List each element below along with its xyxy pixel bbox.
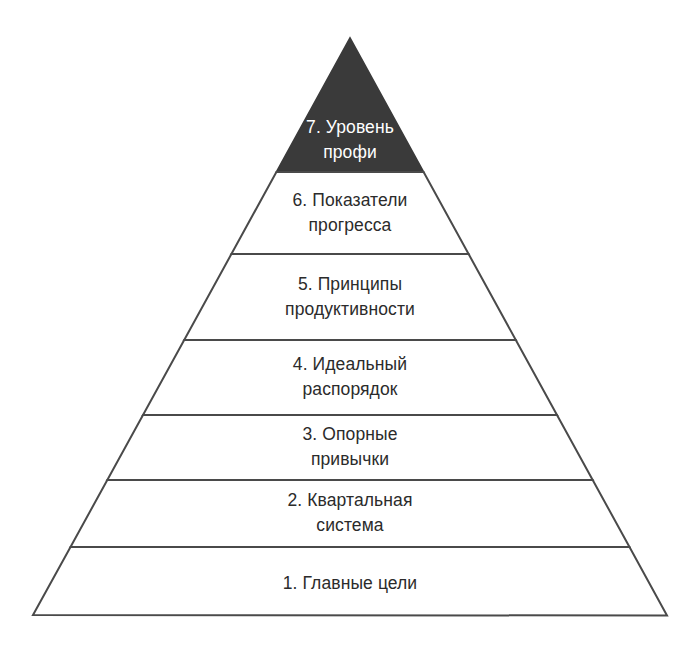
- pyramid-diagram: 7. Уровень профи 6. Показатели прогресса…: [0, 0, 698, 648]
- pyramid-tier-5-shape[interactable]: [184, 254, 516, 340]
- pyramid-tier-7-shape[interactable]: [276, 38, 423, 172]
- pyramid-shape: [0, 0, 698, 648]
- pyramid-tier-4-shape[interactable]: [143, 340, 557, 415]
- pyramid-tier-1-shape[interactable]: [33, 547, 667, 616]
- pyramid-tier-3-shape[interactable]: [107, 415, 592, 480]
- pyramid-tier-2-shape[interactable]: [71, 480, 630, 547]
- pyramid-tier-6-shape[interactable]: [231, 172, 468, 254]
